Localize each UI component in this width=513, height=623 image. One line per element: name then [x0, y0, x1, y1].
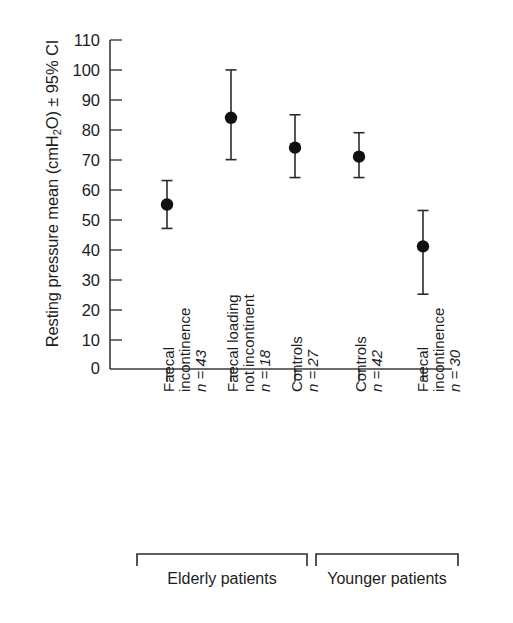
x-category-label-3: Controls	[352, 336, 369, 392]
data-marker	[225, 112, 237, 124]
group-label-younger: Younger patients	[316, 570, 458, 588]
group-label-elderly: Elderly patients	[137, 570, 307, 588]
x-category-label-0: Faecal	[160, 347, 177, 392]
x-category-n-1: n = 18	[256, 350, 273, 392]
x-category-label-1: Faecal loading	[224, 294, 241, 392]
x-category-n-0: n = 43	[192, 350, 209, 392]
axes	[110, 40, 452, 382]
x-category-line2-4: incontinence	[430, 308, 447, 392]
data-marker	[289, 141, 301, 153]
x-category-n-3: n = 42	[368, 350, 385, 392]
x-category-label-2: Controls	[288, 336, 305, 392]
data-marker	[353, 150, 365, 162]
data-point-3	[353, 133, 365, 178]
chart-figure: Resting pressure mean (cmH2O) ± 95% CI 1…	[0, 0, 513, 623]
x-category-line1-3: Controls	[352, 336, 369, 392]
x-category-line2-0: incontinence	[176, 308, 193, 392]
data-point-2	[289, 115, 301, 178]
data-point-1	[225, 70, 237, 160]
data-series	[161, 70, 429, 294]
x-category-label-4b: incontinence	[430, 308, 447, 392]
x-category-line1-0: Faecal	[160, 347, 177, 392]
data-marker	[161, 198, 173, 210]
data-point-0	[161, 181, 173, 229]
group-brackets	[137, 554, 458, 566]
bracket-younger-patients	[316, 554, 458, 566]
x-category-label-4: Faecal	[414, 347, 431, 392]
x-category-line2-1: not incontinent	[240, 294, 257, 392]
x-category-line1-4: Faecal	[414, 347, 431, 392]
data-marker	[417, 240, 429, 252]
bracket-elderly-patients	[137, 554, 307, 566]
x-category-label-0b: incontinence	[176, 308, 193, 392]
x-category-line1-2: Controls	[288, 336, 305, 392]
x-category-line1-1: Faecal loading	[224, 294, 241, 392]
x-category-n-4: n = 30	[446, 350, 463, 392]
x-category-label-1b: not incontinent	[240, 294, 257, 392]
data-point-4	[417, 210, 429, 294]
x-category-n-2: n = 27	[304, 350, 321, 392]
